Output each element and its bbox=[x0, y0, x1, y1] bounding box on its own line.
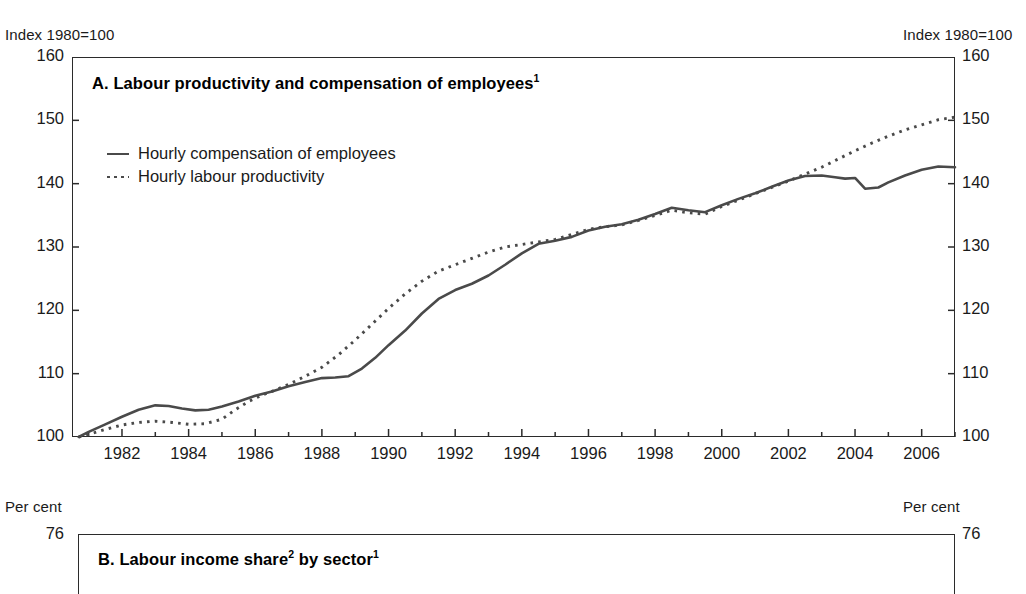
panel-a-ytick-label-right-100: 100 bbox=[962, 426, 1022, 445]
panel-b-title-text: B. Labour income share bbox=[98, 550, 288, 568]
unit-label-left-panel-b: Per cent bbox=[5, 498, 62, 515]
panel-a-ytick-label-left-110: 110 bbox=[8, 363, 64, 382]
panel-a-xtick-label-1992: 1992 bbox=[420, 444, 490, 463]
panel-a-xtick-label-2000: 2000 bbox=[687, 444, 757, 463]
panel-a-ytick-label-right-110: 110 bbox=[962, 363, 1022, 382]
panel-a-xtick-label-1996: 1996 bbox=[553, 444, 623, 463]
panel-a-ytick-label-left-130: 130 bbox=[8, 236, 64, 255]
panel-a-ytick-label-left-160: 160 bbox=[8, 46, 64, 65]
panel-b-title-mid: by sector bbox=[294, 550, 373, 568]
panel-a-xtick-label-1982: 1982 bbox=[87, 444, 157, 463]
panel-a-xtick-label-1984: 1984 bbox=[154, 444, 224, 463]
panel-a-xtick-label-1990: 1990 bbox=[354, 444, 424, 463]
panel-a-xtick-label-1998: 1998 bbox=[620, 444, 690, 463]
panel-a-xtick-label-1994: 1994 bbox=[487, 444, 557, 463]
panel-a-ytick-label-right-150: 150 bbox=[962, 109, 1022, 128]
panel-b-ytick-label-left: 76 bbox=[8, 524, 64, 543]
panel-a-xtick-label-1986: 1986 bbox=[220, 444, 290, 463]
series-line-compensation bbox=[79, 167, 955, 437]
series-line-productivity bbox=[79, 117, 955, 437]
panel-a-xtick-label-1988: 1988 bbox=[287, 444, 357, 463]
panel-a-ytick-label-right-120: 120 bbox=[962, 299, 1022, 318]
panel-a-xtick-label-2006: 2006 bbox=[887, 444, 957, 463]
panel-a-ytick-label-left-150: 150 bbox=[8, 109, 64, 128]
unit-label-right-panel-b: Per cent bbox=[903, 498, 960, 515]
panel-a-ytick-label-left-140: 140 bbox=[8, 173, 64, 192]
panel-b-ytick-label-right: 76 bbox=[962, 524, 1022, 543]
panel-b-title-footnote-b: 1 bbox=[373, 548, 379, 560]
panel-b-title: B. Labour income share2 by sector1 bbox=[98, 548, 379, 569]
panel-a-xtick-label-2004: 2004 bbox=[820, 444, 890, 463]
panel-a-ytick-label-right-130: 130 bbox=[962, 236, 1022, 255]
panel-a-xtick-label-2002: 2002 bbox=[753, 444, 823, 463]
panel-a-ytick-label-left-120: 120 bbox=[8, 299, 64, 318]
panel-a-ytick-label-right-140: 140 bbox=[962, 173, 1022, 192]
panel-a-ytick-label-right-160: 160 bbox=[962, 46, 1022, 65]
panel-a-ytick-label-left-100: 100 bbox=[8, 426, 64, 445]
